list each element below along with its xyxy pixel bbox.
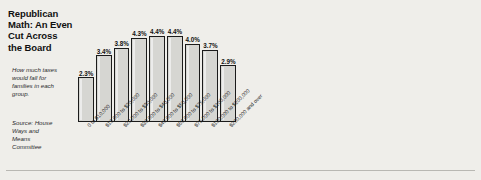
chart-source-republican: Source: House Ways and Means Committee bbox=[12, 119, 78, 151]
bar-value-label: 2.3% bbox=[79, 70, 93, 77]
bar-value-label: 4.4% bbox=[168, 28, 182, 35]
chart-panel-democratic: Democratic Math: A Select Few Get the Be… bbox=[240, 0, 481, 180]
bar: 2.3% bbox=[78, 77, 94, 122]
footer-divider bbox=[6, 170, 475, 171]
bar-value-label: 3.8% bbox=[115, 40, 129, 47]
figure-canvas: Republican Math: An Even Cut Across the … bbox=[0, 0, 481, 180]
bar-value-label: 4.4% bbox=[150, 28, 164, 35]
plot-area-republican: 2.3%3.4%3.8%4.3%4.4%4.4%4.0%3.7%2.9% 0 t… bbox=[78, 14, 236, 122]
bar-value-label: 3.4% bbox=[97, 48, 111, 55]
bar-value-label: 4.0% bbox=[186, 36, 200, 43]
bar-slot: 2.3% bbox=[78, 14, 94, 122]
chart-panel-republican: Republican Math: An Even Cut Across the … bbox=[0, 0, 240, 180]
bar-value-label: 2.9% bbox=[221, 58, 235, 65]
x-axis-tick-labels-republican: 0 to $10,000$10,000 to $20,000$20,000 to… bbox=[78, 122, 236, 180]
bar-value-label: 3.7% bbox=[203, 42, 217, 49]
bar-value-label: 4.3% bbox=[132, 30, 146, 37]
chart-subtitle-republican: How much taxes would fall for families i… bbox=[12, 66, 78, 98]
